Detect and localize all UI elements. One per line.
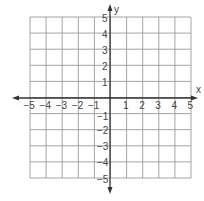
y-tick-label: 5 (102, 13, 108, 24)
y-axis-down-arrow-icon (108, 187, 113, 194)
y-axis-label: y (114, 4, 119, 15)
x-axis-label: x (196, 84, 201, 95)
x-tick-label: 1 (123, 100, 129, 111)
y-tick-label: −3 (97, 141, 109, 152)
y-tick-label: 3 (102, 45, 108, 56)
y-tick-label: −5 (97, 174, 109, 185)
y-tick-label: 1 (102, 77, 108, 88)
y-tick-label: −1 (97, 111, 109, 122)
x-tick-label: −4 (40, 100, 52, 111)
y-tick-label: 4 (102, 29, 108, 40)
x-tick-label: 4 (171, 100, 177, 111)
x-axis-left-arrow-icon (12, 96, 19, 101)
y-tick-label: −2 (97, 125, 109, 136)
y-axis-up-arrow-icon (108, 4, 113, 11)
x-tick-label: −3 (56, 100, 68, 111)
x-tick-label: −1 (88, 100, 100, 111)
x-tick-label: 2 (139, 100, 145, 111)
x-tick-label: 5 (188, 100, 194, 111)
x-tick-label: −2 (72, 100, 84, 111)
x-tick-labels: −5−4−3−2−112345 (24, 100, 194, 111)
y-tick-label: 2 (102, 61, 108, 72)
y-tick-label: −4 (97, 157, 109, 168)
x-tick-label: 3 (155, 100, 161, 111)
coordinate-plane: x y −5−4−3−2−112345 54321−1−2−3−4−5 (0, 0, 204, 201)
x-tick-label: −5 (24, 100, 36, 111)
